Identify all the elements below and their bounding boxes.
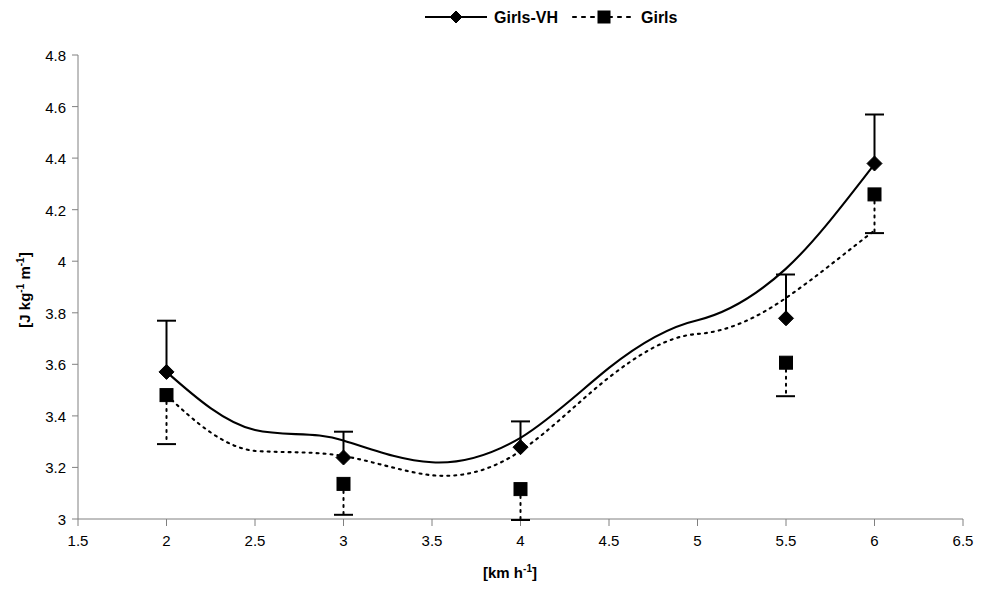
chart-svg: Girls-VH Girls 3 3.2 3.4 3.6 3.8 [0,0,990,594]
series-girls [157,188,884,520]
legend-label-girls-vh: Girls-VH [494,9,558,26]
series-girls-error-bars [157,194,884,520]
y-tick-label: 3.6 [45,356,66,373]
data-point-marker [868,188,881,201]
x-tick-label: 3.5 [422,532,443,549]
svg-text:[J kg-1 m-1]: [J kg-1 m-1] [15,252,33,327]
x-tick-label: 1.5 [68,532,89,549]
x-tick-label: 4.5 [599,532,620,549]
y-axis-title-part2: m [16,266,33,284]
y-tick-label: 3.4 [45,408,66,425]
legend-item-girls: Girls [573,9,678,26]
data-point-marker [336,450,351,465]
chart-container: Girls-VH Girls 3 3.2 3.4 3.6 3.8 [0,0,990,594]
y-axis-ticks: 3 3.2 3.4 3.6 3.8 4 4.2 4.4 4.6 4.8 [45,47,78,528]
y-axis-title-part1: [J kg [16,293,33,328]
series-girls-vh-line [167,164,875,462]
x-tick-label: 5 [693,532,701,549]
y-tick-label: 3.2 [45,459,66,476]
y-tick-label: 3 [58,511,66,528]
data-point-marker [337,477,350,490]
legend-square-icon [598,11,610,23]
x-axis-ticks: 1.5 2 2.5 3 3.5 4 4.5 5 5.5 6 6.5 [68,519,974,549]
y-axis-title-tail: ] [16,252,33,257]
x-tick-label: 6 [870,532,878,549]
y-tick-label: 4.6 [45,99,66,116]
data-point-marker [780,356,793,369]
legend-label-girls: Girls [641,9,678,26]
x-axis-title-tail: ] [532,564,537,581]
data-point-marker [779,311,794,326]
y-tick-label: 4.2 [45,202,66,219]
x-tick-label: 2 [162,532,170,549]
data-point-marker [867,156,882,171]
series-girls-vh-error-bars [157,115,884,458]
y-axis-title: [J kg-1 m-1] [15,252,33,327]
x-tick-label: 2.5 [245,532,266,549]
series-girls-vh-markers [159,156,882,465]
x-tick-label: 6.5 [953,532,974,549]
y-tick-label: 3.8 [45,305,66,322]
legend-item-girls-vh: Girls-VH [425,9,558,26]
data-point-marker [514,483,527,496]
x-axis-title-base: [km h [483,564,523,581]
data-point-marker [160,389,173,402]
y-tick-label: 4 [58,253,66,270]
series-girls-vh [157,115,884,466]
y-tick-label: 4.8 [45,47,66,64]
legend-diamond-icon [450,11,462,23]
x-tick-label: 4 [516,532,524,549]
y-tick-label: 4.4 [45,150,66,167]
x-axis-title: [km h-1] [483,563,537,581]
x-tick-label: 5.5 [776,532,797,549]
chart-legend: Girls-VH Girls [425,9,678,26]
x-tick-label: 3 [339,532,347,549]
svg-text:[km h-1]: [km h-1] [483,563,537,581]
